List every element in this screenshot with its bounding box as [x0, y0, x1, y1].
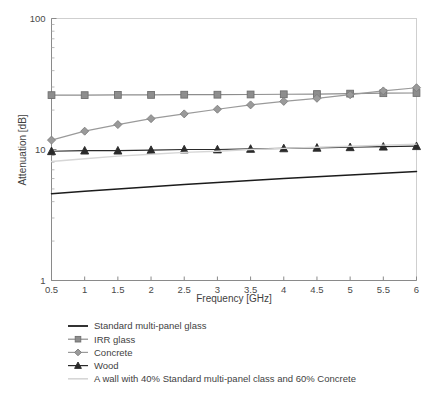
- data-point-marker: [147, 115, 155, 123]
- data-point-marker: [75, 336, 81, 342]
- legend-item[interactable]: A wall with 40% Standard multi-panel cla…: [68, 373, 356, 384]
- x-tick-label: 2: [148, 284, 153, 295]
- chart-legend: Standard multi-panel glassIRR glassConcr…: [68, 320, 356, 384]
- x-axis-title: Frequency [GHz]: [196, 293, 272, 304]
- data-point-marker: [214, 91, 221, 98]
- x-axis-ticks: [52, 277, 417, 281]
- series-wood: [48, 142, 421, 155]
- attenuation-chart-figure: 110100 0.511.522.533.544.555.56 Frequenc…: [0, 0, 434, 395]
- data-point-marker: [114, 121, 122, 129]
- data-point-marker: [148, 92, 155, 99]
- x-tick-label: 4: [281, 284, 286, 295]
- y-tick-label: 10: [35, 144, 46, 155]
- data-point-marker: [81, 127, 89, 135]
- y-tick-label: 100: [30, 13, 46, 24]
- data-point-marker: [48, 136, 56, 144]
- data-series-layer: [48, 84, 421, 194]
- y-axis-tick-labels: 110100: [30, 13, 46, 286]
- legend-item[interactable]: Wood: [68, 360, 119, 371]
- series-line: [52, 88, 417, 140]
- series-concrete: [48, 84, 421, 144]
- data-point-marker: [280, 91, 287, 98]
- x-tick-label: 2.5: [178, 284, 191, 295]
- legend-label: Standard multi-panel glass: [94, 320, 207, 331]
- x-tick-label: 1: [82, 284, 87, 295]
- x-tick-label: 5.5: [377, 284, 390, 295]
- x-tick-label: 6: [414, 284, 419, 295]
- legend-label: Wood: [94, 360, 119, 371]
- x-tick-label: 5: [347, 284, 352, 295]
- x-tick-label: 4.5: [310, 284, 323, 295]
- data-point-marker: [181, 91, 188, 98]
- data-point-marker: [114, 92, 121, 99]
- data-point-marker: [247, 91, 254, 98]
- legend-label: Concrete: [94, 347, 133, 358]
- data-point-marker: [81, 92, 88, 99]
- legend-label: IRR glass: [94, 334, 135, 345]
- legend-item[interactable]: IRR glass: [68, 334, 135, 345]
- x-tick-label: 0.5: [45, 284, 58, 295]
- series-irr-glass: [48, 90, 420, 99]
- series-standard-multi-panel-glass: [52, 171, 417, 193]
- data-point-marker: [280, 97, 288, 105]
- x-tick-label: 1.5: [111, 284, 124, 295]
- chart-canvas: 110100 0.511.522.533.544.555.56 Frequenc…: [0, 0, 434, 395]
- data-point-marker: [48, 92, 55, 99]
- data-point-marker: [247, 101, 255, 109]
- data-point-marker: [180, 110, 188, 118]
- y-axis-title: Attenuation [dB]: [17, 114, 28, 185]
- data-point-marker: [75, 349, 82, 356]
- legend-label: A wall with 40% Standard multi-panel cla…: [94, 373, 356, 384]
- legend-item[interactable]: Standard multi-panel glass: [68, 320, 207, 331]
- data-point-marker: [213, 105, 221, 113]
- legend-item[interactable]: Concrete: [68, 347, 133, 358]
- series-line: [52, 171, 417, 193]
